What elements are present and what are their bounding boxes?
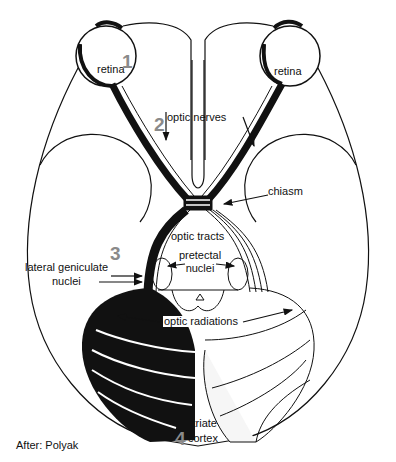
credit-text: After: Polyak bbox=[16, 440, 78, 451]
optic-nerves bbox=[112, 84, 282, 200]
label-lateral-geniculate-nuclei: nuclei bbox=[52, 276, 81, 287]
label-pretectal: pretectal bbox=[177, 250, 223, 261]
stage-number-2: 2 bbox=[154, 115, 165, 134]
stage-number-1: 1 bbox=[122, 52, 133, 71]
stage-number-4: 4 bbox=[175, 429, 186, 448]
label-cortex: cortex bbox=[188, 433, 218, 444]
visual-pathway-diagram: retina 1 retina 2 optic nerves chiasm op… bbox=[0, 0, 396, 462]
label-optic-tracts: optic tracts bbox=[171, 231, 224, 242]
label-pretectal-nuclei: nuclei bbox=[177, 263, 223, 274]
label-striate: striate bbox=[187, 418, 217, 429]
label-optic-nerves: optic nerves bbox=[167, 112, 226, 123]
label-optic-radiations: optic radiations bbox=[163, 316, 239, 327]
optic-radiation-left bbox=[82, 288, 195, 442]
optic-radiation-right bbox=[204, 288, 314, 442]
chiasm bbox=[184, 196, 212, 210]
label-retina-right: retina bbox=[274, 66, 302, 77]
label-retina-left: retina bbox=[97, 64, 125, 75]
stage-number-3: 3 bbox=[110, 244, 121, 263]
label-lateral-geniculate: lateral geniculate bbox=[25, 262, 108, 273]
label-chiasm: chiasm bbox=[268, 186, 303, 197]
